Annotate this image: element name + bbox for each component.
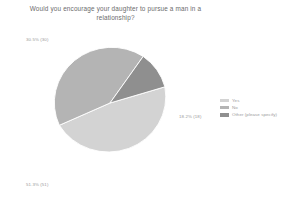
legend-swatch-no [220,106,229,110]
legend-item-yes[interactable]: Yes [220,98,277,103]
pie-chart-graphic [52,47,168,159]
chart-title: Would you encourage your daughter to pur… [18,4,213,22]
legend-swatch-yes [220,99,229,103]
legend-label-yes: Yes [232,98,239,103]
legend-label-no: No [232,105,238,110]
legend-item-other[interactable]: Other (please specify) [220,112,277,117]
chart-legend: Yes No Other (please specify) [220,98,277,117]
slice-label-other: 18.2% (18) [179,114,201,120]
slice-label-yes: 51.3% (51) [26,182,48,188]
legend-item-no[interactable]: No [220,105,277,110]
legend-swatch-other [220,113,229,117]
slice-label-no: 30.5% (30) [26,37,48,43]
pie-chart-figure: Would you encourage your daughter to pur… [0,0,300,204]
legend-label-other: Other (please specify) [232,112,277,117]
